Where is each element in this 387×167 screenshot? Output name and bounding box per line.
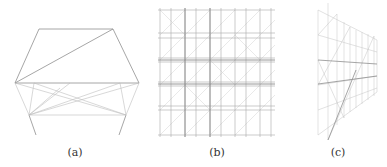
perspective-lattice-diagram (280, 0, 387, 167)
panel-c: (c) (280, 0, 387, 167)
grid-lattice-diagram (130, 0, 275, 167)
truss-module-diagram (0, 0, 140, 167)
panel-a: (a) (0, 0, 140, 167)
caption-a: (a) (60, 146, 90, 159)
caption-b: (b) (202, 146, 232, 159)
caption-c: (c) (323, 146, 353, 159)
panel-b: (b) (130, 0, 275, 167)
